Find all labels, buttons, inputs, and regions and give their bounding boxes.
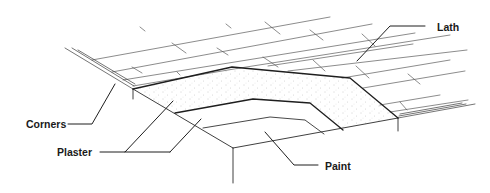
right-corner-bead (398, 103, 475, 131)
diagram-drawing (0, 0, 490, 193)
label-plaster: Plaster (57, 146, 92, 158)
left-corner-bead (65, 48, 135, 99)
label-corners: Corners (26, 118, 66, 130)
ceiling-layers-diagram: Lath Corners Plaster Paint (0, 0, 490, 193)
label-lath: Lath (437, 21, 459, 33)
leader-corners (68, 82, 116, 124)
label-paint: Paint (325, 160, 351, 172)
